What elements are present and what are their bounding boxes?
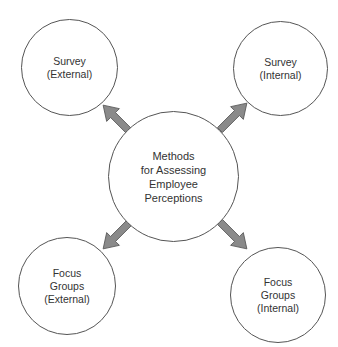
node-survey-internal: Survey (Internal) xyxy=(233,21,328,116)
node-center-methods: Methods for Assessing Employee Perceptio… xyxy=(108,111,239,242)
node-focus-groups-external: Focus Groups (External) xyxy=(18,237,116,335)
node-label: Focus Groups (Internal) xyxy=(257,276,299,315)
node-survey-external: Survey (External) xyxy=(21,19,118,116)
node-focus-groups-internal: Focus Groups (Internal) xyxy=(230,247,326,343)
node-label: Survey (Internal) xyxy=(259,56,301,82)
node-label: Focus Groups (External) xyxy=(44,267,90,306)
center-label: Methods for Assessing Employee Perceptio… xyxy=(141,149,206,205)
node-label: Survey (External) xyxy=(47,55,93,81)
